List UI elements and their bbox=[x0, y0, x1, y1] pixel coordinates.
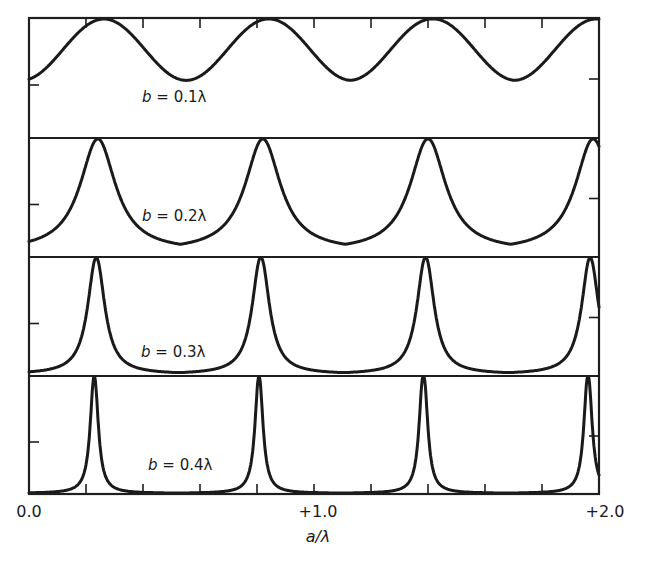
panel-label-var: b bbox=[142, 207, 152, 225]
chart-canvas bbox=[0, 0, 651, 564]
panel-label-b-0-3: b = 0.3λ bbox=[141, 343, 205, 361]
panel-label-value: = 0.3λ bbox=[151, 343, 206, 361]
plot-frame bbox=[29, 18, 599, 494]
curve-b-0.2 bbox=[29, 139, 599, 244]
panel-label-b-0-2: b = 0.2λ bbox=[142, 207, 206, 225]
panel-label-value: = 0.4λ bbox=[158, 456, 213, 474]
panel-label-value: = 0.2λ bbox=[152, 207, 207, 225]
x-tick-label-0: 0.0 bbox=[16, 502, 41, 521]
x-tick-label-1: +1.0 bbox=[299, 502, 338, 521]
panel-label-var: b bbox=[142, 88, 152, 106]
panel-label-var: b bbox=[141, 343, 151, 361]
curve-b-0.3 bbox=[29, 258, 599, 373]
panel-label-b-0-4: b = 0.4λ bbox=[148, 456, 212, 474]
x-tick-label-2: +2.0 bbox=[586, 502, 625, 521]
curve-b-0.4 bbox=[29, 377, 599, 493]
curve-b-0.1 bbox=[29, 19, 599, 80]
panel-label-b-0-1: b = 0.1λ bbox=[142, 88, 206, 106]
panel-label-var: b bbox=[148, 456, 158, 474]
panel-label-value: = 0.1λ bbox=[152, 88, 207, 106]
x-axis-title: a/λ bbox=[306, 527, 331, 546]
